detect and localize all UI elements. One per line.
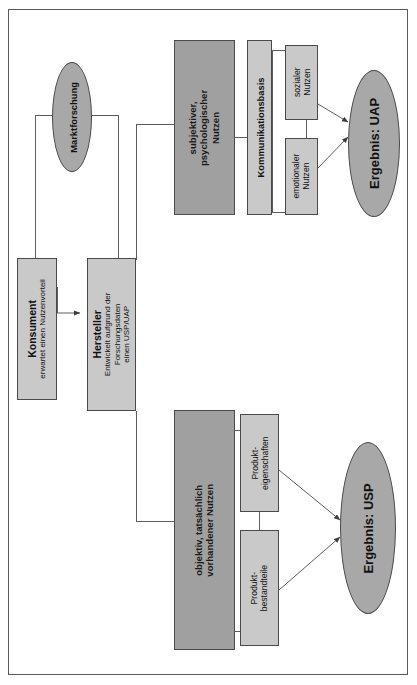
node-produkteigenschaften-line1: Produkt- bbox=[249, 436, 259, 490]
node-subjektiver-nutzen[interactable]: subjektiver, psychologischer Nutzen bbox=[174, 40, 235, 215]
node-sozialer-nutzen-line2: Nutzen bbox=[302, 68, 312, 98]
node-marktforschung[interactable]: Marktforschung bbox=[52, 62, 92, 172]
node-konsument-title: Konsument bbox=[26, 279, 38, 379]
node-marktforschung-label: Marktforschung bbox=[63, 82, 82, 153]
edge-hersteller-subjektiv-v bbox=[136, 124, 137, 260]
node-hersteller-subtitle-2: Forschungsdaten bbox=[113, 293, 122, 377]
node-objektiver-nutzen[interactable]: objektiv, tatsächlich vorhandener Nutzen bbox=[174, 410, 235, 650]
node-subjektiver-nutzen-line3: Nutzen bbox=[210, 89, 221, 165]
node-ergebnis-usp-label: Ergebnis: USP bbox=[359, 483, 378, 573]
edge-subjektiv-kommunikation bbox=[235, 137, 247, 138]
node-subjektiver-nutzen-text: subjektiver, psychologischer Nutzen bbox=[188, 89, 222, 165]
node-emotionaler-nutzen-text: emotionaler Nutzen bbox=[291, 154, 311, 199]
node-subjektiver-nutzen-line1: subjektiver, bbox=[188, 89, 199, 165]
node-objektiver-nutzen-line2: vorhandener Nutzen bbox=[205, 484, 216, 577]
node-sozialer-nutzen-text: sozialer Nutzen bbox=[291, 68, 311, 98]
edge-marktforschung-hersteller-v bbox=[118, 115, 119, 260]
node-produktbestandteile[interactable]: Produkt- bestandteile bbox=[240, 530, 279, 646]
edge-konsument-hersteller-v bbox=[57, 287, 58, 313]
node-ergebnis-usp[interactable]: Ergebnis: USP bbox=[340, 442, 396, 614]
node-kommunikationsbasis-label: Kommunikationsbasis bbox=[250, 77, 269, 177]
node-produktbestandteile-line1: Produkt- bbox=[249, 565, 259, 611]
node-produkteigenschaften-line2: eigenschaften bbox=[260, 436, 270, 490]
edge-hersteller-subjektiv-h bbox=[136, 124, 174, 125]
edge-eigenschaften-bestandteile bbox=[259, 512, 260, 530]
node-konsument-subtitle: erwartet einen Nutzenvorteil bbox=[38, 279, 47, 379]
edge-kommunikation-sozial-v bbox=[272, 50, 273, 137]
edge-sozial-emotional bbox=[306, 120, 307, 138]
node-produkteigenschaften[interactable]: Produkt- eigenschaften bbox=[240, 414, 279, 512]
node-kommunikationsbasis[interactable]: Kommunikationsbasis bbox=[247, 40, 272, 215]
node-emotionaler-nutzen-line1: emotionaler bbox=[291, 154, 301, 199]
node-konsument-text: Konsument erwartet einen Nutzenvorteil bbox=[26, 279, 48, 379]
node-sozialer-nutzen-line1: sozialer bbox=[291, 68, 301, 98]
edge-hersteller-objektiv-h bbox=[136, 521, 174, 522]
node-objektiver-nutzen-line1: objektiv, tatsächlich bbox=[193, 484, 204, 577]
edge-kommunikation-sozial-h bbox=[272, 50, 285, 51]
node-emotionaler-nutzen-line2: Nutzen bbox=[302, 154, 312, 199]
node-produktbestandteile-text: Produkt- bestandteile bbox=[249, 565, 269, 611]
edge-marktforschung-hersteller-h bbox=[90, 115, 118, 116]
node-ergebnis-uap[interactable]: Ergebnis: UAP bbox=[348, 70, 400, 217]
node-subjektiver-nutzen-line2: psychologischer bbox=[199, 89, 210, 165]
node-produkteigenschaften-text: Produkt- eigenschaften bbox=[249, 436, 269, 490]
node-hersteller-text: Hersteller Entwickelt aufgrund der Forsc… bbox=[91, 293, 132, 377]
node-objektiver-nutzen-text: objektiv, tatsächlich vorhandener Nutzen bbox=[193, 484, 216, 577]
node-hersteller[interactable]: Hersteller Entwickelt aufgrund der Forsc… bbox=[87, 258, 136, 411]
node-sozialer-nutzen[interactable]: sozialer Nutzen bbox=[285, 45, 318, 120]
node-konsument[interactable]: Konsument erwartet einen Nutzenvorteil bbox=[17, 258, 57, 400]
node-ergebnis-uap-label: Ergebnis: UAP bbox=[365, 98, 384, 189]
edge-hersteller-objektiv-v bbox=[136, 411, 137, 521]
edge-kommunikation-emotional-v bbox=[272, 137, 273, 212]
node-produktbestandteile-line2: bestandteile bbox=[260, 565, 270, 611]
node-hersteller-subtitle-3: einen USP/UAP bbox=[122, 293, 131, 377]
node-emotionaler-nutzen[interactable]: emotionaler Nutzen bbox=[285, 138, 318, 215]
edge-konsument-marktforschung-v bbox=[35, 115, 36, 260]
node-hersteller-subtitle-1: Entwickelt aufgrund der bbox=[104, 293, 113, 377]
edge-kommunikation-emotional-h bbox=[272, 212, 285, 213]
node-hersteller-title: Hersteller bbox=[91, 293, 103, 377]
diagram-page: Marktforschung Konsument erwartet einen … bbox=[0, 0, 417, 685]
